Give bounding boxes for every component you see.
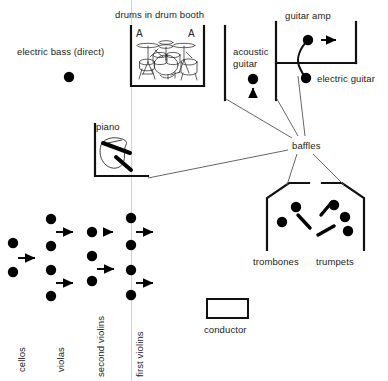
label-acoustic-guitar-line1: acoustic [233, 46, 269, 57]
player-dot-first-violin-1 [126, 213, 136, 223]
player-dot-viola-3 [46, 265, 56, 275]
conductor-box [207, 299, 248, 318]
label-trombones: trombones [253, 256, 299, 267]
player-dot-viola-4 [46, 291, 56, 301]
guitar-cable [298, 40, 308, 78]
brass-mic-strokes [298, 202, 334, 235]
player-dot-second-violin-1 [87, 227, 97, 237]
mic-dot-guitar-amp [303, 35, 313, 45]
label-violas: violas [55, 347, 66, 372]
label-acoustic-guitar-line2: guitar [233, 58, 257, 69]
label-cellos: cellos [16, 347, 27, 372]
studio-layout-diagram: drums in drum booth electric bass (direc… [0, 0, 388, 381]
label-guitar-amp: guitar amp [285, 10, 331, 21]
label-drum-mic-right: A [188, 28, 195, 39]
player-dot-trombone-2 [277, 217, 287, 227]
player-dot-first-violin-4 [126, 290, 136, 300]
label-piano: piano [96, 121, 120, 132]
player-dot-cello-1 [8, 238, 18, 248]
player-dot-trumpet-2 [340, 212, 350, 222]
player-dot-viola-1 [46, 214, 56, 224]
brass-mic-trumpet-2 [318, 226, 334, 235]
player-dot-trumpet-3 [343, 226, 353, 236]
baffle-leader-lines [148, 76, 344, 185]
label-electric-guitar: electric guitar [317, 73, 375, 84]
label-trumpets: trumpets [316, 256, 354, 267]
label-conductor: conductor [204, 324, 247, 335]
guitar-amp-booth-walls [276, 22, 356, 100]
label-second-violins: second violins [95, 316, 106, 377]
label-first-violins: first violins [134, 331, 145, 377]
player-dot-cello-2 [8, 267, 18, 277]
player-dot-viola-2 [46, 241, 56, 251]
player-dot-second-violin-3 [87, 276, 97, 286]
diagram-canvas [0, 0, 388, 381]
player-dot-trombone-1 [291, 202, 301, 212]
label-electric-bass: electric bass (direct) [17, 46, 104, 57]
mic-dot-electric-guitar [301, 73, 311, 83]
player-dot-second-violin-2 [87, 251, 97, 261]
player-dot-first-violin-3 [126, 265, 136, 275]
label-drum-booth: drums in drum booth [115, 9, 204, 20]
drum-kit-sketch [137, 41, 197, 80]
mic-dot-acoustic-guitar [248, 74, 258, 84]
label-drum-mic-left: A [136, 28, 143, 39]
microphone-dots [8, 35, 353, 301]
brass-mic-trombone [298, 215, 310, 228]
label-baffles: baffles [292, 140, 321, 151]
player-dot-first-violin-2 [126, 240, 136, 250]
mic-dot-electric-bass [64, 72, 74, 82]
